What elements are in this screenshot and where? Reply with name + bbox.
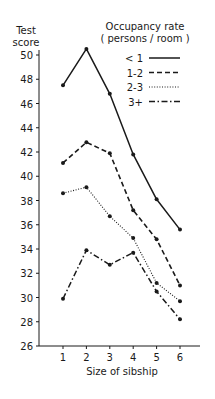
data-point (178, 317, 182, 321)
data-point (131, 208, 135, 212)
legend-label: < 1 (125, 53, 143, 64)
data-point (155, 237, 159, 241)
legend-subtitle: ( persons / room ) (100, 33, 189, 44)
x-tick-label: 1 (60, 352, 66, 363)
data-point (61, 297, 65, 301)
y-tick-label: 36 (20, 220, 33, 231)
legend-title: Occupancy rate (106, 21, 185, 32)
y-tick-label: 50 (20, 50, 33, 61)
y-tick-label: 40 (20, 171, 33, 182)
x-tick-label: 2 (83, 352, 89, 363)
x-tick-label: 6 (177, 352, 183, 363)
y-tick-label: 28 (20, 317, 33, 328)
y-tick-label: 34 (20, 244, 33, 255)
legend-items: < 11-22-33+ (125, 53, 180, 108)
series-dotted (61, 185, 182, 303)
y-tick-label: 30 (20, 293, 33, 304)
series-line (63, 49, 180, 230)
x-tick-label: 4 (130, 352, 136, 363)
x-tick-label: 3 (107, 352, 113, 363)
x-axis-title: Size of sibship (86, 366, 158, 377)
data-point (108, 151, 112, 155)
y-tick-label: 44 (20, 123, 33, 134)
data-point (178, 228, 182, 232)
legend-label: 2-3 (127, 82, 143, 93)
series-group (61, 47, 182, 321)
y-tick-label: 42 (20, 147, 33, 158)
data-point (155, 197, 159, 201)
series-line (63, 250, 180, 319)
data-point (108, 92, 112, 96)
legend-label: 1-2 (127, 68, 143, 79)
data-point (108, 263, 112, 267)
data-point (178, 299, 182, 303)
y-tick-label: 26 (20, 341, 33, 352)
y-axis-ticks: 26283032343638404244464850 (20, 50, 39, 352)
data-point (61, 83, 65, 87)
data-point (108, 214, 112, 218)
y-axis-title-line-2: score (13, 37, 40, 48)
data-point (155, 289, 159, 293)
y-tick-label: 48 (20, 74, 33, 85)
series-solid (61, 47, 182, 232)
data-point (131, 251, 135, 255)
x-tick-label: 5 (153, 352, 159, 363)
data-point (131, 236, 135, 240)
data-point (61, 161, 65, 165)
series-dashed (61, 140, 182, 287)
x-axis-ticks: 123456 (60, 346, 183, 363)
y-tick-label: 46 (20, 99, 33, 110)
y-axis-title: Test score (13, 25, 40, 48)
data-point (84, 140, 88, 144)
series-dashdot (61, 248, 182, 321)
data-point (84, 185, 88, 189)
data-point (131, 152, 135, 156)
data-point (155, 281, 159, 285)
legend-label: 3+ (128, 97, 143, 108)
data-point (61, 191, 65, 195)
data-point (84, 248, 88, 252)
legend: Occupancy rate ( persons / room ) < 11-2… (100, 21, 189, 108)
data-point (84, 47, 88, 51)
y-axis-title-line-1: Test (15, 25, 36, 36)
data-point (178, 283, 182, 287)
y-tick-label: 38 (20, 196, 33, 207)
series-line (63, 187, 180, 301)
line-chart: Test score 26283032343638404244464850 12… (0, 0, 215, 399)
y-tick-label: 32 (20, 268, 33, 279)
